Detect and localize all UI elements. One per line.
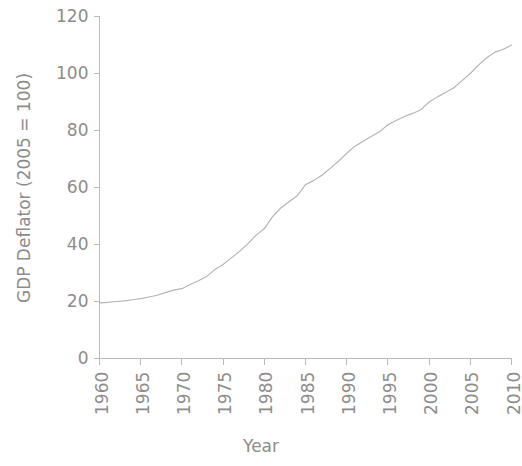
axes [94,17,512,365]
x-tick-label-2005: 2005 [462,371,482,414]
y-tick-label-80: 80 [29,120,89,140]
y-axis-ticks [94,17,100,359]
x-axis-ticks [100,359,512,365]
x-tick-label-1975: 1975 [215,371,235,414]
x-tick-label-1980: 1980 [256,371,276,414]
y-axis-title: GDP Deflator (2005 = 100) [14,72,34,302]
x-tick-label-1995: 1995 [380,371,400,414]
x-tick-label-1960: 1960 [92,371,112,414]
x-tick-label-1990: 1990 [339,371,359,414]
x-tick-label-1965: 1965 [133,371,153,414]
x-tick-label-1970: 1970 [174,371,194,414]
x-tick-label-2010: 2010 [504,371,522,414]
y-tick-label-60: 60 [29,177,89,197]
gdp-deflator-chart: 020406080100120 196019651970197519801985… [0,0,522,466]
gdp-deflator-series-line [100,45,512,303]
y-tick-label-100: 100 [29,63,89,83]
x-axis-title: Year [0,436,522,456]
y-tick-label-40: 40 [29,234,89,254]
x-tick-label-2000: 2000 [421,371,441,414]
y-tick-label-0: 0 [29,348,89,368]
y-tick-label-20: 20 [29,291,89,311]
x-tick-label-1985: 1985 [298,371,318,414]
y-tick-label-120: 120 [29,6,89,26]
